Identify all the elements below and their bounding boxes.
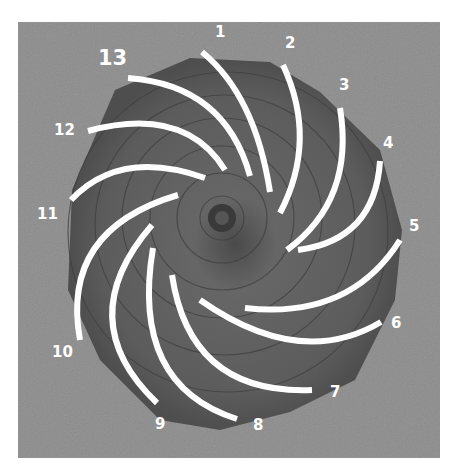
spiral-label-3: 3 [339,78,349,93]
spiral-overlay [18,22,440,458]
spiral-label-10: 10 [52,345,73,360]
spiral-label-2: 2 [285,36,295,51]
pine-cone-photo [18,22,440,458]
spiral-label-12: 12 [54,123,75,138]
spiral-label-8: 8 [253,418,263,433]
spiral-label-9: 9 [155,417,165,432]
spiral-label-7: 7 [330,385,340,400]
spiral-label-5: 5 [409,219,419,234]
spiral-label-13: 13 [98,48,127,69]
spiral-label-11: 11 [37,207,58,222]
spiral-label-1: 1 [215,25,225,40]
spiral-label-4: 4 [383,136,393,151]
spiral-label-6: 6 [391,316,401,331]
